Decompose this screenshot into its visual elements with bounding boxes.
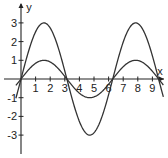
y-tick-label: 2 (11, 36, 17, 48)
x-axis-label: x (157, 65, 163, 77)
x-tick-label: 3 (62, 82, 68, 94)
y-tick-label: -3 (7, 129, 17, 141)
axis-labels: 123456789-3-2-1123xy (7, 1, 163, 141)
x-tick-label: 8 (135, 82, 141, 94)
sine-chart: 123456789-3-2-1123xy (0, 0, 168, 158)
x-tick-label: 9 (149, 82, 155, 94)
x-tick-label: 1 (33, 82, 39, 94)
y-axis-label: y (26, 1, 32, 13)
x-tick-label: 4 (76, 82, 82, 94)
x-tick-label: 6 (106, 82, 112, 94)
y-tick-label: -1 (7, 92, 17, 104)
x-tick-label: 7 (120, 82, 126, 94)
y-tick-label: -2 (7, 110, 17, 122)
x-tick-label: 5 (91, 82, 97, 94)
y-tick-label: 1 (11, 54, 17, 66)
x-tick-label: 2 (47, 82, 53, 94)
y-tick-label: 3 (11, 17, 17, 29)
y-axis-arrow-icon (19, 3, 24, 8)
